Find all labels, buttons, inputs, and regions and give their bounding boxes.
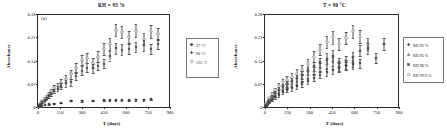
plot-area-left: (b) 00.070.140.210.280150300450600750900 [37, 14, 170, 108]
error-bar-cap [157, 28, 160, 29]
data-point [319, 66, 322, 69]
y-tick-mark [263, 14, 265, 15]
error-bar-cap [313, 74, 316, 75]
y-axis-label-left: Absorbance [6, 37, 11, 77]
x-tick-mark [332, 107, 333, 109]
error-bar-cap [301, 65, 304, 66]
data-point [134, 99, 137, 102]
data-point [103, 99, 106, 102]
panel-label: (b) [41, 16, 47, 21]
data-point [383, 42, 386, 45]
y-tick-mark [36, 14, 38, 15]
error-bar-cap [128, 31, 131, 32]
error-bar-cap [325, 36, 328, 37]
data-point [127, 47, 130, 50]
error-bar-cap [48, 98, 51, 99]
x-tick-mark [170, 107, 171, 109]
error-bar-cap [150, 54, 153, 55]
legend-item: 125 °C [189, 58, 216, 67]
data-point [134, 29, 137, 32]
data-point [157, 42, 160, 45]
error-bar-cap [319, 71, 322, 72]
legend-label: 125 °C [196, 60, 208, 65]
error-bar-cap [92, 64, 95, 65]
error-bar-cap [142, 33, 145, 34]
data-point [149, 30, 152, 33]
legend-label: RH 92 % [413, 43, 428, 48]
x-axis-label-right: T (days) [223, 121, 446, 126]
axis-top-border-right [265, 14, 399, 15]
error-bar-cap [81, 75, 84, 76]
error-bar-cap [319, 78, 322, 79]
data-point [60, 85, 63, 88]
error-bar-cap [150, 44, 153, 45]
legend-item: RH 95 % [406, 50, 441, 60]
legend-label: RH 99.9 % [413, 73, 431, 78]
legend-marker-icon [406, 53, 411, 58]
data-point [312, 55, 315, 58]
y-axis-label-right: Absorbance [233, 37, 238, 77]
error-bar-cap [120, 55, 123, 56]
error-bar-cap [97, 62, 100, 63]
error-bar-cap [359, 56, 362, 57]
error-bar-cap [157, 49, 160, 50]
error-bar-cap [277, 97, 280, 98]
chart-panel-right: T = 90 °C 00.070.140.210.280150300450600… [223, 0, 446, 135]
error-bar-cap [70, 70, 73, 71]
error-bar-cap [307, 59, 310, 60]
y-tick-mark [263, 61, 265, 62]
error-bar-cap [313, 51, 316, 52]
error-bar-cap [352, 52, 355, 53]
error-bar-cap [46, 100, 49, 101]
legend-item: 90 °C [189, 50, 216, 59]
data-point [325, 71, 328, 74]
error-bar-cap [53, 93, 56, 94]
error-bar-cap [331, 44, 334, 45]
data-point [86, 66, 89, 69]
error-bar-cap [331, 66, 334, 67]
legend-label: RH 95 % [413, 53, 428, 58]
data-point [157, 33, 160, 36]
legend-item: RH 92 % [406, 40, 441, 50]
error-bar-cap [375, 53, 378, 54]
x-tick-mark [377, 107, 378, 109]
data-point [344, 36, 347, 39]
x-tick-mark [82, 107, 83, 109]
error-bar-cap [301, 75, 304, 76]
data-point [96, 55, 99, 58]
error-bar-cap [81, 66, 84, 67]
error-bar-cap [128, 54, 131, 55]
data-point [114, 28, 117, 31]
error-bar-cap [375, 63, 378, 64]
data-point [70, 99, 73, 102]
legend-item: 37 °C [189, 41, 216, 50]
error-bar-cap [325, 68, 328, 69]
legend-label: 37 °C [196, 43, 206, 48]
data-point [120, 30, 123, 33]
error-bar-cap [366, 54, 369, 55]
plot-area-right: 00.070.140.210.280150300450600750900 [264, 14, 399, 108]
error-bar-cap [352, 60, 355, 61]
error-bar-cap [103, 43, 106, 44]
error-bar-cap [286, 76, 289, 77]
error-bar-cap [345, 62, 348, 63]
data-point [114, 99, 117, 102]
error-bar-cap [331, 50, 334, 51]
data-point [120, 99, 123, 102]
chart-title-right: T = 90 °C [223, 2, 446, 8]
data-point [53, 90, 56, 93]
error-bar-cap [313, 67, 316, 68]
error-bar-cap [114, 54, 117, 55]
error-bar-cap [109, 38, 112, 39]
error-bar-cap [142, 40, 145, 41]
data-point [149, 47, 152, 50]
error-bar-cap [338, 72, 341, 73]
y-tick-mark [36, 84, 38, 85]
data-point [120, 48, 123, 51]
data-point [331, 60, 334, 63]
data-point [351, 63, 354, 66]
data-point [102, 47, 105, 50]
data-point [325, 40, 328, 43]
error-bar-cap [81, 55, 84, 56]
data-point [366, 46, 369, 49]
